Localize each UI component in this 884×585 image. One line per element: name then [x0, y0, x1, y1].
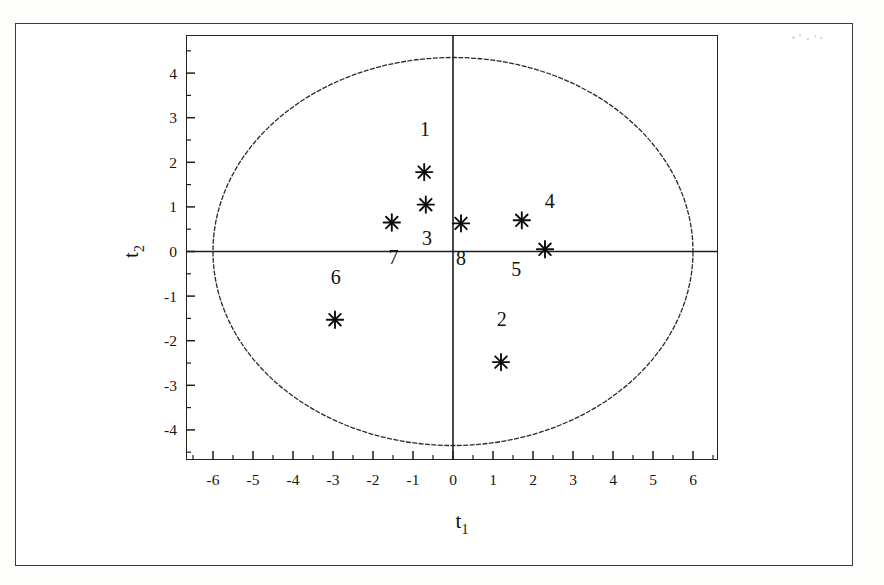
scan-artifact: [790, 34, 824, 41]
plot-axes-box: [186, 35, 718, 460]
figure-page: -6-5-4-3-2-10123456-4-3-2-101234 1234567…: [0, 0, 884, 585]
